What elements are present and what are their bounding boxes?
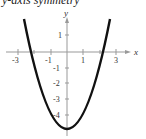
y-tick: -2 [53,79,60,88]
x-tick: 3 [114,56,118,65]
parabola-chart: x y -3 -1 1 3 1 -1 -2 -3 -4 [0,0,146,139]
x-tick: -1 [45,56,52,65]
y-axis-label: y [63,8,68,18]
x-axis-arrow-icon [125,50,131,54]
y-tick: 1 [58,31,62,40]
y-tick: -3 [53,95,60,104]
x-tick: -3 [12,56,19,65]
x-axis-label: x [133,47,138,57]
y-tick: -1 [53,64,60,73]
x-tick: 1 [81,56,85,65]
